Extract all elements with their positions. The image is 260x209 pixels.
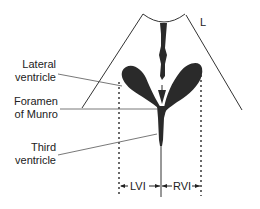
label-lateral-ventricle-line1: Lateral: [6, 58, 56, 71]
leader-third-ventricle: [58, 134, 157, 155]
midline-structure: [159, 23, 167, 80]
lvi-right-arrowhead-icon: [155, 184, 160, 188]
label-lateral-ventricle-line2: ventricle: [6, 71, 56, 84]
rvi-left-arrowhead-icon: [162, 184, 167, 188]
measurement-lvi: LVI: [130, 180, 146, 192]
label-foramen-line1: Foramen: [6, 95, 58, 108]
label-foramen-line2: of Munro: [6, 108, 58, 121]
right-lateral-ventricle: [164, 63, 202, 112]
third-ventricle: [157, 106, 167, 146]
label-third-ventricle-line1: Third: [6, 141, 56, 154]
scan-sector-left-edge: [82, 14, 143, 108]
label-foramen-of-munro: Foramen of Munro: [6, 95, 58, 121]
left-lateral-ventricle: [122, 66, 161, 110]
leader-lateral-ventricle: [58, 74, 122, 86]
label-lateral-ventricle: Lateral ventricle: [6, 58, 56, 84]
measurement-rvi: RVI: [173, 180, 191, 192]
scan-sector-right-edge: [186, 15, 242, 110]
lvi-left-arrowhead-icon: [120, 184, 125, 188]
label-third-ventricle-line2: ventricle: [6, 154, 56, 167]
corner-label: L: [200, 16, 206, 29]
scan-sector-top-arc: [143, 14, 185, 22]
rvi-right-arrowhead-icon: [195, 184, 200, 188]
label-third-ventricle: Third ventricle: [6, 141, 56, 167]
